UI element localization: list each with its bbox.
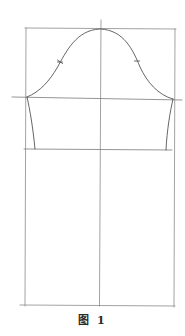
hem-line xyxy=(20,305,175,306)
right-vertical-line xyxy=(174,29,175,307)
left-vertical-line xyxy=(25,28,26,306)
elbow-line xyxy=(24,149,172,150)
figure-caption: 图 1 xyxy=(0,314,185,328)
center-vertical-line xyxy=(100,20,102,306)
right-underarm-seam xyxy=(166,99,173,150)
left-underarm-seam xyxy=(27,97,35,149)
sleeve-pattern-diagram xyxy=(0,0,185,336)
sleeve-cap-curve xyxy=(27,29,173,99)
bicep-line xyxy=(12,97,182,100)
